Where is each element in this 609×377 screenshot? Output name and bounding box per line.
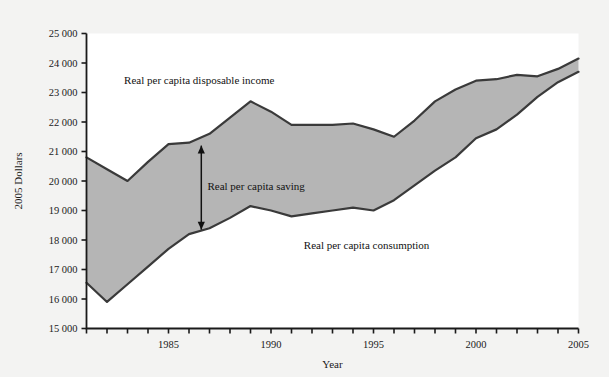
annotation-saving: Real per capita saving [207,180,305,192]
x-tick-label: 2005 [568,339,589,350]
y-tick-label: 15 000 [49,323,78,334]
x-axis-title: Year [322,358,343,370]
chart-figure: 15 00016 00017 00018 00019 00020 00021 0… [0,0,609,377]
y-tick-label: 22 000 [49,117,78,128]
y-tick-label: 16 000 [49,294,78,305]
y-tick-label: 23 000 [49,87,78,98]
annotation-consumption: Real per capita consumption [304,239,430,251]
y-tick-label: 18 000 [49,235,78,246]
y-tick-label: 20 000 [49,176,78,187]
x-tick-label: 2000 [466,339,487,350]
y-axis-title: 2005 Dollars [12,152,24,209]
x-tick-label: 1985 [158,339,179,350]
y-tick-label: 17 000 [49,264,78,275]
y-tick-label: 21 000 [49,146,78,157]
y-tick-label: 25 000 [49,28,78,39]
y-tick-label: 19 000 [49,205,78,216]
x-tick-label: 1995 [363,339,384,350]
annotation-disposable-income: Real per capita disposable income [124,74,274,86]
x-tick-label: 1990 [261,339,282,350]
y-tick-label: 24 000 [49,58,78,69]
